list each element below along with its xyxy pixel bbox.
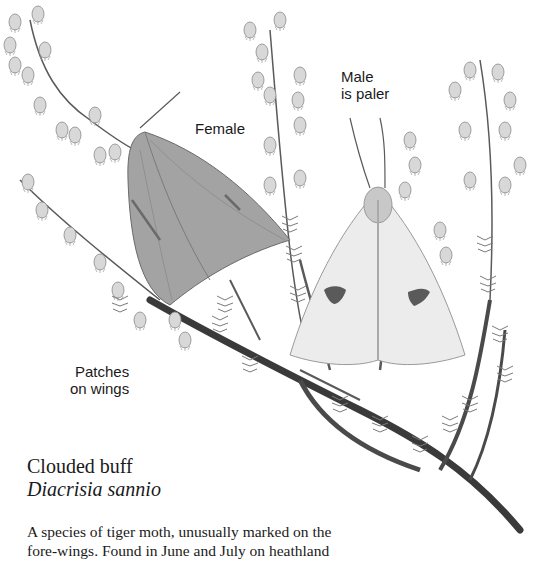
male-moth xyxy=(290,118,465,365)
female-label-text: Female xyxy=(195,120,245,137)
species-latin-name: Diacrisia sannio xyxy=(27,478,161,500)
description-line: A species of tiger moth, unusually marke… xyxy=(27,522,527,541)
heather-sprig-left xyxy=(4,6,135,166)
female-label: Female xyxy=(195,120,245,137)
heather-sprig-center xyxy=(244,12,306,340)
patches-label-line2: on wings xyxy=(70,380,129,397)
patches-label: Patches on wings xyxy=(70,363,129,397)
patches-label-line1: Patches xyxy=(70,363,129,380)
species-common-name: Clouded buff xyxy=(27,455,133,477)
male-label-line1: Male xyxy=(341,68,389,85)
male-label-line2: is paler xyxy=(341,85,389,102)
male-label: Male is paler xyxy=(341,68,389,102)
species-description: A species of tiger moth, unusually marke… xyxy=(27,522,527,560)
description-line: fore-wings. Found in June and July on he… xyxy=(27,541,527,560)
